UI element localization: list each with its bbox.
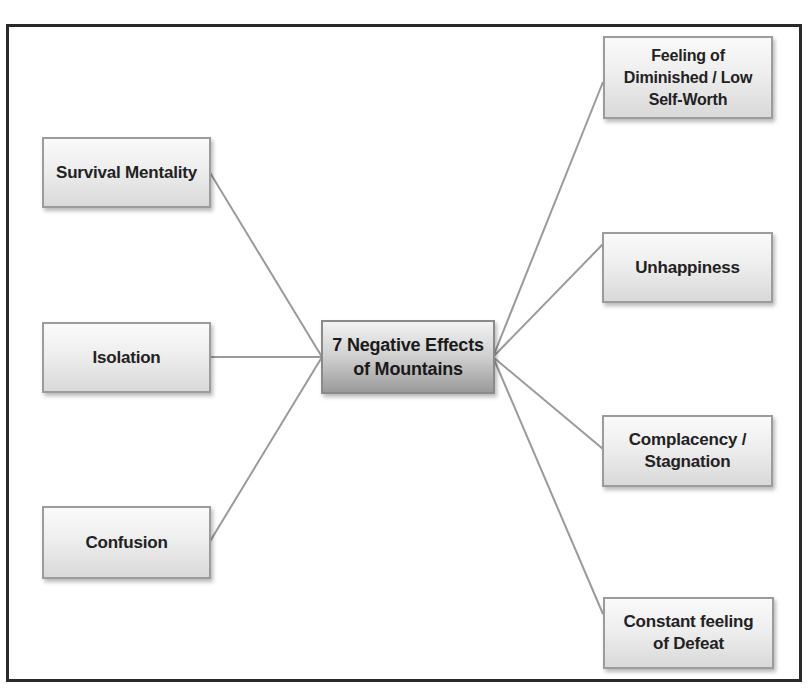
node-label: Constant feeling of Defeat — [624, 611, 754, 655]
node-label: Feeling of Diminished / Low Self-Worth — [624, 45, 752, 111]
node-label: Survival Mentality — [56, 162, 197, 184]
center-node-label: 7 Negative Effects of Mountains — [332, 333, 483, 381]
connector-complacency — [493, 357, 603, 449]
node-confusion: Confusion — [42, 506, 211, 579]
node-constant-defeat: Constant feeling of Defeat — [603, 597, 774, 669]
connector-confusion — [209, 357, 322, 543]
node-unhappiness: Unhappiness — [602, 232, 773, 303]
node-complacency-stagnation: Complacency / Stagnation — [602, 415, 773, 487]
node-label: Confusion — [85, 532, 167, 554]
connector-unhappiness — [493, 244, 603, 357]
node-label: Unhappiness — [635, 257, 740, 279]
connector-survival-mentality — [209, 171, 322, 357]
connector-feeling-diminished — [493, 82, 603, 357]
node-label: Complacency / Stagnation — [629, 429, 746, 473]
node-feeling-diminished: Feeling of Diminished / Low Self-Worth — [603, 36, 773, 119]
node-isolation: Isolation — [42, 322, 211, 393]
center-node: 7 Negative Effects of Mountains — [321, 320, 495, 394]
node-label: Isolation — [92, 347, 160, 369]
connector-constant-defeat — [493, 357, 603, 614]
node-survival-mentality: Survival Mentality — [42, 137, 211, 208]
